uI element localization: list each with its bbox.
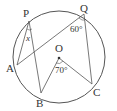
segment-QC xyxy=(84,14,92,84)
label-A: A xyxy=(6,62,14,74)
label-Q: Q xyxy=(80,2,88,14)
angle-label-Q: 60° xyxy=(70,24,83,34)
label-P: P xyxy=(23,7,29,19)
segment-PB xyxy=(29,21,41,93)
label-B: B xyxy=(36,97,43,109)
circle-diagram: P Q A B C O x 60° 70° xyxy=(0,0,117,111)
angle-arc-P xyxy=(27,29,32,30)
angle-label-P: x xyxy=(25,33,30,43)
angle-label-O: 70° xyxy=(55,65,68,75)
center-dot xyxy=(58,57,61,60)
label-C: C xyxy=(93,86,100,98)
label-O: O xyxy=(55,42,63,54)
